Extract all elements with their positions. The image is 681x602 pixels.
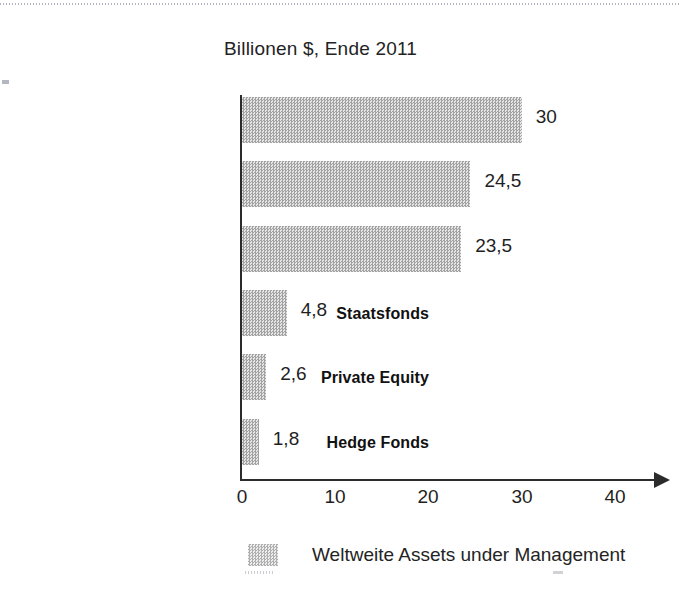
bar-versicherungsfonds bbox=[242, 161, 470, 207]
x-tick-10: 10 bbox=[305, 486, 365, 508]
bar-hedge-fonds bbox=[242, 419, 259, 465]
x-tick-30: 30 bbox=[492, 486, 552, 508]
x-tick-20: 20 bbox=[398, 486, 458, 508]
bar-value-staatsfonds: 4,8 bbox=[301, 299, 327, 321]
bar-value-private-equity: 2,6 bbox=[280, 363, 306, 385]
bar-pensionsfonds bbox=[242, 97, 522, 143]
x-tick-40: 40 bbox=[585, 486, 645, 508]
x-tick-0: 0 bbox=[212, 486, 272, 508]
series-color-swatch bbox=[248, 544, 278, 566]
chart-title: Billionen $, Ende 2011 bbox=[0, 38, 681, 60]
plot-area: 30 24,5 23,5 4,8 2,6 1,8 bbox=[242, 95, 615, 481]
bar-value-versicherungsfonds: 24,5 bbox=[484, 170, 521, 192]
x-axis-arrow-icon bbox=[654, 472, 670, 488]
bar-publikumsfonds bbox=[242, 226, 461, 272]
bar-value-hedge-fonds: 1,8 bbox=[273, 428, 299, 450]
chart-legend: Weltweite Assets under Management bbox=[248, 544, 625, 566]
bar-private-equity bbox=[242, 354, 266, 400]
bar-value-publikumsfonds: 23,5 bbox=[475, 235, 512, 257]
legend-label: Weltweite Assets under Management bbox=[312, 544, 625, 566]
x-axis-line bbox=[240, 479, 658, 481]
bar-chart: Billionen $, Ende 2011 Pensionsfonds Ver… bbox=[0, 0, 681, 602]
bar-value-pensionsfonds: 30 bbox=[536, 106, 557, 128]
bar-staatsfonds bbox=[242, 290, 287, 336]
